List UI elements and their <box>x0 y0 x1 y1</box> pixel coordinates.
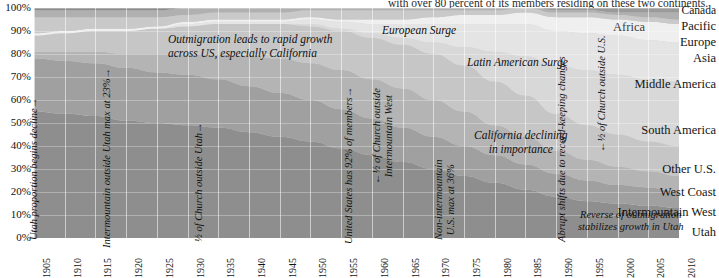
y-tick-70: 70% <box>11 71 31 82</box>
series-label-europe: Europe <box>680 36 716 49</box>
x-tick-1985: 1985 <box>533 258 543 278</box>
x-tick-2010: 2010 <box>687 258 697 278</box>
annotation-non-intermountain-max: Non-intermountain U.S. max at 36% <box>433 160 457 241</box>
annotation-california-declining: California declining in importance <box>474 129 568 156</box>
annotation-us-92: United States has 92% of members→ <box>343 87 355 244</box>
chart-figure: with over 80 percent of its members resi… <box>0 0 719 278</box>
x-tick-1975: 1975 <box>472 258 482 278</box>
y-tick-80: 80% <box>11 48 31 59</box>
x-tick-1960: 1960 <box>380 258 390 278</box>
x-tick-1965: 1965 <box>411 258 421 278</box>
y-tick-90: 90% <box>11 25 31 36</box>
annotation-half-outside-intermountain: ←½ of Church outside Intermountain West <box>371 88 395 184</box>
x-tick-1920: 1920 <box>134 258 144 278</box>
x-tick-1970: 1970 <box>441 258 451 278</box>
x-tick-1980: 1980 <box>503 258 513 278</box>
series-label-asia: Asia <box>693 52 716 65</box>
annotation-half-outside-us: ←½ of Church outside U.S. <box>596 35 608 152</box>
x-tick-1995: 1995 <box>595 258 605 278</box>
x-tick-2000: 2000 <box>626 258 636 278</box>
x-tick-1910: 1910 <box>73 258 83 278</box>
x-tick-1950: 1950 <box>318 258 328 278</box>
area-paths <box>34 8 679 238</box>
x-tick-1990: 1990 <box>564 258 574 278</box>
annotation-abrupt-shifts: Abrupt shifts due to record-keeping chan… <box>556 56 568 242</box>
x-tick-1955: 1955 <box>349 258 359 278</box>
annotation-half-outside-utah: ½ of Church outside Utah→ <box>193 123 205 242</box>
annotation-outmigration: Outmigration leads to rapid growth acros… <box>168 33 332 60</box>
annotation-intermountain-max: Intermountain outside Utah max at 23%→ <box>101 68 113 248</box>
annotation-latin-american-surge: Latin American Surge <box>467 56 568 70</box>
x-tick-1915: 1915 <box>103 258 113 278</box>
x-tick-1940: 1940 <box>257 258 267 278</box>
series-label-utah: Utah <box>692 226 716 239</box>
annotation-european-surge: European Surge <box>382 24 456 38</box>
annotation-reverse-outmigration: Reverse of outmigration stabilizes growt… <box>578 209 684 233</box>
x-tick-2005: 2005 <box>656 258 666 278</box>
x-tick-1930: 1930 <box>196 258 206 278</box>
x-tick-1925: 1925 <box>165 258 175 278</box>
x-tick-1905: 1905 <box>42 258 52 278</box>
stacked-area-plot <box>34 8 679 238</box>
x-tick-1945: 1945 <box>288 258 298 278</box>
annotation-utah-decline: Utah proportion begins decline→ <box>28 98 40 240</box>
series-label-pacific: Pacific <box>681 20 716 33</box>
y-tick-100: 100% <box>5 2 31 13</box>
x-tick-1935: 1935 <box>226 258 236 278</box>
